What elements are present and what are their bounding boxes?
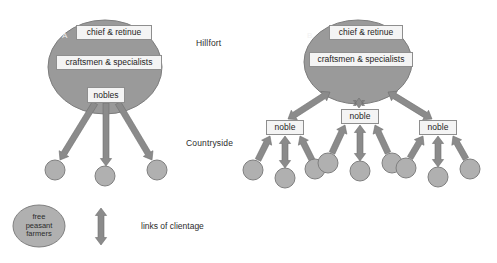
peasant-circle-r3 (460, 159, 480, 179)
links-of-clientage-key-label: links of clientage (141, 221, 204, 231)
noble-left-box: noble (266, 120, 304, 135)
link-hillfort-noble-left (288, 91, 330, 119)
link-noble-right-p3 (452, 136, 469, 160)
peasant-circle-c2 (350, 161, 370, 181)
link-noble-left-p2 (279, 136, 290, 168)
chief-retinue-box: chief & retinue (76, 25, 152, 40)
link-noble-left-p3 (298, 136, 314, 161)
chief-retinue-box: chief & retinue (329, 25, 403, 40)
link-nobles-to-left-peasant (59, 101, 97, 160)
free-peasant-farmers-key-text: freepeasantfarmers (9, 213, 69, 239)
panel-letter-a: A (62, 31, 67, 40)
figure-canvas: Achief & retinuecraftsmen & specialistsn… (0, 0, 497, 263)
hillfort-label: Hillfort (196, 38, 221, 48)
link-noble-centre-p3 (373, 125, 391, 154)
link-noble-centre-p2 (354, 125, 365, 161)
links-of-clientage-key-arrow (95, 208, 106, 245)
link-nobles-to-right-peasant (115, 101, 153, 160)
noble-centre-box: noble (341, 109, 379, 124)
peasant-circle-r1 (396, 158, 416, 178)
peasant-circle-left (45, 160, 65, 180)
peasant-circle-l1 (243, 160, 263, 180)
panel-A (45, 20, 167, 186)
craftsmen-specialists-box: craftsmen & specialists (309, 52, 413, 67)
peasant-circle-c1 (318, 153, 338, 173)
craftsmen-specialists-box: craftsmen & specialists (56, 55, 162, 70)
link-noble-centre-p1 (329, 125, 347, 154)
link-hillfort-noble-right (388, 91, 432, 120)
peasant-circle-right (147, 160, 167, 180)
panel-B (243, 20, 480, 188)
countryside-label: Countryside (186, 138, 233, 148)
panel-letter-b: B (307, 31, 312, 40)
link-noble-right-p2 (432, 136, 443, 167)
nobles-box: nobles (87, 87, 125, 103)
link-noble-right-p1 (407, 136, 424, 160)
link-noble-left-p1 (255, 136, 271, 161)
peasant-circle-r2 (428, 167, 448, 187)
peasant-circle-centre (95, 166, 115, 186)
peasant-circle-l2 (275, 168, 295, 188)
noble-right-box: noble (419, 120, 457, 135)
free-peasant-farmers-key-line-3: farmers (9, 230, 69, 239)
